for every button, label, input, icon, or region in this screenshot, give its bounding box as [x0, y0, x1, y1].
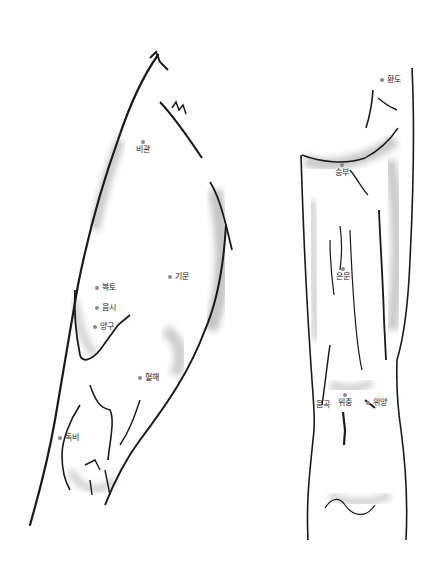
acupoint-eumgok: 음곡	[316, 395, 330, 409]
point-dot-icon	[58, 436, 62, 440]
point-label: 기문	[175, 273, 189, 281]
point-label: 위중	[338, 399, 352, 407]
acupoint-hwando: 환도	[380, 76, 401, 84]
front-thigh-figure	[30, 52, 232, 525]
point-label: 승부	[335, 169, 349, 177]
acupoint-bigwan: 비관	[136, 140, 150, 154]
point-label: 위양	[373, 399, 387, 407]
point-dot-icon	[141, 140, 145, 144]
point-label: 음곡	[316, 401, 330, 409]
point-label: 환도	[387, 76, 401, 84]
point-dot-icon	[343, 393, 347, 397]
acupoint-hyeolhae: 혈해	[138, 374, 159, 382]
point-label: 양구	[100, 323, 114, 331]
point-dot-icon	[340, 163, 344, 167]
point-dot-icon	[138, 376, 142, 380]
acupoint-seungbu: 승부	[335, 163, 349, 177]
acupoint-wiyang: 위양	[366, 399, 387, 407]
point-label: 독비	[65, 434, 79, 442]
point-dot-icon	[168, 275, 172, 279]
point-dot-icon	[341, 267, 345, 271]
point-dot-icon	[380, 78, 384, 82]
acupoint-eunmun: 은문	[336, 267, 350, 281]
point-dot-icon	[366, 401, 370, 405]
back-leg-figure	[300, 68, 419, 540]
acupoint-eumsi: 음시	[95, 304, 116, 312]
point-dot-icon	[95, 306, 99, 310]
point-dot-icon	[95, 286, 99, 290]
acupoint-dokbi: 독비	[58, 434, 79, 442]
point-label: 비관	[136, 146, 150, 154]
point-dot-icon	[93, 325, 97, 329]
point-label: 혈해	[145, 374, 159, 382]
acupoint-gimun: 기문	[168, 273, 189, 281]
acupoint-yanggu: 양구	[93, 323, 114, 331]
acupoint-boktu: 복토	[95, 284, 116, 292]
point-label: 음시	[102, 304, 116, 312]
point-label: 복토	[102, 284, 116, 292]
point-label: 은문	[336, 273, 350, 281]
leg-illustration	[0, 0, 442, 569]
acupoint-wijung: 위중	[338, 393, 352, 407]
